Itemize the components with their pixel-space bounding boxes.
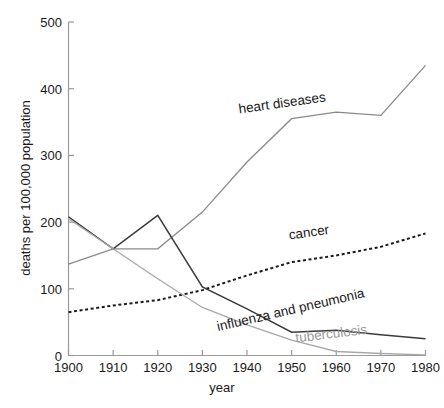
x-tick-label: 1970 [366,360,395,375]
y-axis-ticks [69,22,75,356]
series-inline-labels: heart diseasescancerinfluenza and pneumo… [215,89,368,345]
y-axis-group: 0100200300400500 deaths per 100,000 popu… [18,15,74,364]
y-tick-label: 100 [40,282,62,297]
x-tick-label: 1920 [143,360,172,375]
x-tick-label: 1960 [322,360,351,375]
y-tick-label: 200 [40,215,62,230]
y-tick-label: 500 [40,15,62,30]
chart-canvas: 0100200300400500 deaths per 100,000 popu… [0,0,444,408]
x-tick-label: 1980 [411,360,440,375]
x-tick-label: 1940 [233,360,262,375]
line-chart: 0100200300400500 deaths per 100,000 popu… [0,0,444,408]
x-tick-label: 1900 [54,360,83,375]
series-label-heart-diseases: heart diseases [238,89,327,116]
series-label-tuberculosis: tuberculosis [295,322,369,346]
series-label-cancer: cancer [288,222,331,243]
series-line [69,233,426,312]
y-axis-title: deaths per 100,000 population [18,100,33,276]
y-axis-tick-labels: 0100200300400500 [40,15,62,364]
y-tick-label: 300 [40,148,62,163]
x-axis-tick-labels: 190019101920193019401950196019701980 [54,360,440,375]
x-axis-title: year [209,380,235,395]
x-axis-group: 190019101920193019401950196019701980 yea… [54,350,440,395]
x-tick-label: 1950 [277,360,306,375]
x-tick-label: 1910 [99,360,128,375]
y-tick-label: 400 [40,82,62,97]
x-tick-label: 1930 [188,360,217,375]
series-line [69,65,426,264]
